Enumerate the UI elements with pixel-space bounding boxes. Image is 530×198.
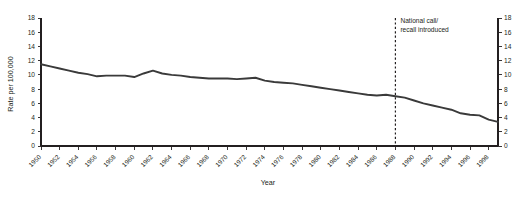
x-axis-title: Year	[261, 178, 276, 187]
x-tick-label: 1976	[270, 153, 285, 168]
x-axis: 1950195219541956195819601962196419661968…	[27, 146, 498, 168]
x-tick-label: 1954	[64, 153, 79, 168]
x-tick-label: 1978	[288, 153, 303, 168]
y-axis-right-ticks: 024681012141618	[498, 14, 512, 149]
x-tick-label: 1986	[363, 153, 378, 168]
x-tick-label: 1982	[326, 153, 341, 168]
y-tick-right-label: 4	[504, 114, 508, 121]
x-tick-label: 1952	[46, 153, 61, 168]
x-tick-label: 1962	[139, 153, 154, 168]
y-tick-label: 6	[31, 100, 35, 107]
chart-container: 024681012141618 024681012141618 19501952…	[0, 0, 530, 198]
y-axis-left-ticks: 024681012141618	[28, 14, 41, 149]
x-tick-label: 1956	[83, 153, 98, 168]
y-tick-label: 8	[31, 86, 35, 93]
x-tick-label: 1958	[102, 153, 117, 168]
y-tick-label: 2	[31, 128, 35, 135]
y-tick-label: 12	[28, 57, 36, 64]
y-axis-title: Rate per 100,000	[6, 56, 15, 112]
annotation-line-2: recall introduced	[400, 26, 449, 33]
line-chart: 024681012141618 024681012141618 19501952…	[0, 0, 530, 198]
y-axis-left: 024681012141618	[28, 14, 41, 149]
y-tick-label: 14	[28, 43, 36, 50]
annotation-line-1: National call/	[400, 17, 438, 24]
x-tick-label: 1984	[344, 153, 359, 168]
x-tick-label: 1988	[382, 153, 397, 168]
x-tick-label: 1970	[214, 153, 229, 168]
event-marker-group: National call/ recall introduced	[395, 17, 449, 146]
x-tick-label: 1964	[158, 153, 173, 168]
y-tick-label: 16	[28, 29, 36, 36]
y-tick-right-label: 8	[504, 86, 508, 93]
x-tick-label: 1996	[456, 153, 471, 168]
x-tick-label: 1980	[307, 153, 322, 168]
y-tick-label: 4	[31, 114, 35, 121]
y-tick-right-label: 10	[504, 71, 512, 78]
x-tick-label: 1972	[232, 153, 247, 168]
y-tick-right-label: 14	[504, 43, 512, 50]
y-tick-label: 18	[28, 14, 36, 21]
x-tick-label: 1974	[251, 153, 266, 168]
y-axis-right: 024681012141618	[498, 14, 512, 149]
x-tick-label: 1950	[27, 153, 42, 168]
x-tick-label: 1990	[400, 153, 415, 168]
y-tick-label: 10	[28, 71, 36, 78]
y-tick-right-label: 6	[504, 100, 508, 107]
x-axis-ticks: 1950195219541956195819601962196419661968…	[27, 146, 490, 168]
x-tick-label: 1994	[437, 153, 452, 168]
x-tick-label: 1998	[475, 153, 490, 168]
y-tick-right-label: 12	[504, 57, 512, 64]
y-tick-right-label: 18	[504, 14, 512, 21]
y-tick-right-label: 16	[504, 29, 512, 36]
y-tick-right-label: 2	[504, 128, 508, 135]
x-tick-label: 1968	[195, 153, 210, 168]
x-tick-label: 1992	[419, 153, 434, 168]
y-tick-label: 0	[31, 142, 35, 149]
data-series-line	[41, 64, 498, 122]
y-tick-right-label: 0	[504, 142, 508, 149]
x-tick-label: 1966	[176, 153, 191, 168]
x-tick-label: 1960	[120, 153, 135, 168]
